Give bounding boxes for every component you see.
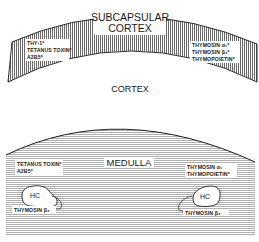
hc-right-marker: THYMOSIN β₃ <box>185 210 221 216</box>
subcapsular-label-line2: CORTEX <box>108 22 152 34</box>
marker-tetanus-toxin: TETANUS TOXIN* <box>27 47 73 53</box>
hc-left-label: HC <box>30 192 40 199</box>
medulla-label: MEDULLA <box>107 157 153 168</box>
marker-thymosin-a1: THYMOSIN α₁* <box>192 42 230 48</box>
marker-thy1: THY-1* <box>27 40 45 46</box>
subcapsular-cortex-region: SUBCAPSULAR CORTEX THY-1* TETANUS TOXIN*… <box>8 10 257 82</box>
cortex-label: CORTEX <box>111 84 148 94</box>
medulla-marker-tetanus-toxin: TETANUS TOXIN* <box>17 161 63 167</box>
hc-left-marker: THYMOSIN β₃ <box>14 207 50 213</box>
hc-right-label: HC <box>200 193 210 200</box>
thymus-diagram: SUBCAPSULAR CORTEX THY-1* TETANUS TOXIN*… <box>0 0 259 242</box>
marker-a2b5: A2B5* <box>27 54 44 60</box>
medulla-marker-thymosin-a1: THYMOSIN α₁ <box>187 164 222 170</box>
medulla-marker-thymopoietin: THYMOPOIETIN* <box>187 171 231 177</box>
marker-thymosin-b3: THYMOSIN β₃* <box>192 49 230 55</box>
marker-thymopoietin: THYMOPOIETIN* <box>192 56 236 62</box>
medulla-region: MEDULLA TETANUS TOXIN* A2B5* THYMOSIN α₁… <box>6 129 255 235</box>
medulla-marker-a2b5: A2B5* <box>17 168 34 174</box>
medulla-area <box>6 129 255 235</box>
